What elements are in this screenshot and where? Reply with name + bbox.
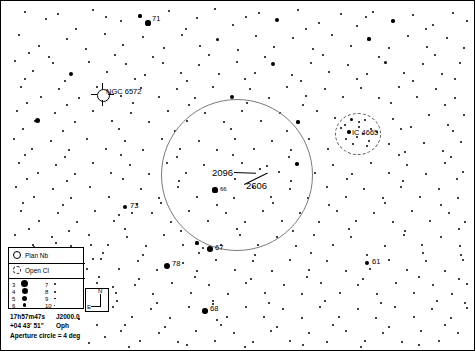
star-point [457, 197, 459, 199]
star-point [35, 118, 40, 123]
star-point [276, 326, 278, 328]
legend-mag-9-dot [54, 298, 56, 300]
star-point [118, 268, 120, 270]
star-point [28, 52, 30, 54]
star-point [18, 162, 20, 164]
star-point [85, 48, 87, 50]
star-point [236, 61, 238, 63]
star-point [370, 162, 372, 164]
star-point [306, 276, 308, 278]
legend-mag-4-dot [22, 288, 28, 294]
star-point [458, 278, 460, 280]
star-point [163, 234, 165, 236]
star-point [300, 80, 302, 82]
star-point [345, 330, 347, 332]
star-point [196, 270, 198, 272]
star-point [401, 341, 403, 343]
star-point [301, 293, 304, 296]
star-point [66, 38, 69, 41]
label-star-67: 67 [215, 244, 223, 252]
star-point [345, 196, 347, 198]
star-point [356, 25, 358, 27]
star-point [14, 234, 16, 236]
star-point [130, 112, 132, 114]
star-point [302, 104, 304, 106]
legend-planetary-nebula-icon [13, 251, 21, 259]
star-point [96, 86, 98, 88]
star-point [310, 62, 312, 64]
star-point [305, 28, 307, 30]
star-point [466, 307, 468, 309]
star-point [275, 18, 279, 22]
star-point [28, 228, 30, 230]
star-point [145, 20, 150, 25]
star-point [462, 171, 464, 173]
star-point [459, 62, 461, 64]
star-point [328, 71, 331, 74]
star-point [460, 254, 462, 256]
star-point [402, 180, 404, 182]
label-star-68: 68 [210, 305, 218, 313]
star-point [434, 54, 436, 56]
star-point [171, 282, 173, 284]
star-point [54, 112, 56, 114]
legend-mag-8: 8 [45, 289, 48, 295]
star-point [92, 258, 94, 260]
star-point [451, 293, 453, 295]
star-point [454, 78, 456, 80]
star-point [435, 88, 437, 90]
star-point [292, 230, 294, 232]
star-point [38, 220, 40, 222]
star-point [273, 46, 275, 48]
star-point [162, 62, 165, 65]
star-point [447, 124, 450, 127]
star-point [24, 154, 26, 156]
star-point [308, 269, 310, 271]
star-point [18, 34, 20, 36]
star-point [395, 282, 397, 284]
star-point [88, 342, 90, 344]
star-point [113, 220, 116, 223]
star-point [419, 196, 421, 198]
star-point [186, 80, 188, 82]
star-point [92, 9, 94, 11]
aperture-circle-caption: Aperture circle = 4 deg [10, 333, 80, 340]
star-point [50, 140, 52, 142]
star-point [283, 284, 285, 286]
star-point [338, 316, 341, 319]
star-point [76, 221, 78, 223]
star-point [421, 244, 423, 246]
star-point [382, 197, 384, 199]
star-point [406, 164, 408, 166]
legend-mag-10: 10 [45, 303, 52, 309]
star-point [150, 308, 152, 310]
star-point [252, 341, 254, 343]
star-point [254, 72, 256, 74]
star-point [446, 37, 448, 39]
star-point [26, 102, 28, 104]
star-point [431, 308, 433, 310]
star-point [66, 180, 68, 182]
star-point [110, 172, 113, 175]
star-point [360, 346, 362, 348]
star-point [37, 172, 39, 174]
star-point [142, 254, 144, 256]
star-point [115, 292, 117, 294]
star-point [295, 245, 297, 247]
star-point [62, 130, 64, 132]
star-point [372, 11, 374, 13]
star-point [176, 88, 179, 91]
legend-planetary-nebula-label: Plan Nb [25, 253, 48, 260]
star-point [245, 282, 247, 284]
star-point [131, 212, 133, 214]
star-point [120, 154, 122, 156]
star-point [181, 34, 183, 36]
star-point [400, 186, 402, 188]
star-point [134, 78, 136, 80]
star-point [365, 16, 367, 18]
star-point [33, 196, 35, 198]
star-point [422, 63, 424, 65]
star-point [118, 128, 120, 130]
star-point [365, 261, 370, 266]
star-point [362, 278, 364, 280]
